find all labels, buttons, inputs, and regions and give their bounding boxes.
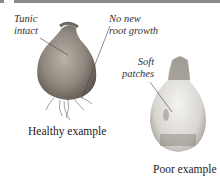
label-no-root-growth: No new root growth — [109, 13, 158, 37]
caption-poor: Poor example — [153, 163, 217, 175]
poor-bulb-image — [150, 56, 206, 152]
caption-healthy: Healthy example — [28, 125, 106, 137]
healthy-bulb-image — [37, 23, 96, 120]
label-tunic-intact: Tunic intact — [14, 13, 38, 37]
label-soft-patches: Soft patches — [122, 56, 154, 80]
